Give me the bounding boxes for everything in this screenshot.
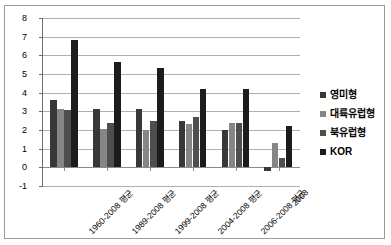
- gridline-1: [43, 149, 300, 150]
- bar: [193, 117, 199, 167]
- bar: [222, 130, 228, 167]
- bar: [229, 123, 235, 168]
- legend-item[interactable]: 영미형: [320, 90, 386, 100]
- y-tick-mark-6: [39, 55, 43, 56]
- y-tick-mark-8: [39, 18, 43, 19]
- bar-group: [264, 18, 292, 186]
- y-tick-mark-2: [39, 130, 43, 131]
- x-tick-label: 2008: [290, 188, 309, 207]
- legend-swatch-icon: [320, 92, 326, 98]
- gridline-0: [43, 167, 300, 168]
- x-tick-mark: [193, 167, 194, 171]
- y-tick-mark-7: [39, 37, 43, 38]
- bar: [200, 89, 206, 167]
- bar: [100, 129, 106, 167]
- legend-swatch-icon: [320, 149, 326, 155]
- bar: [150, 121, 156, 168]
- y-tick-mark--1: [39, 186, 43, 187]
- y-tick-label-4: 4: [22, 88, 27, 97]
- gridline-3: [43, 111, 300, 112]
- bar: [143, 130, 149, 167]
- plot-area: [43, 18, 300, 186]
- legend-item[interactable]: KOR: [320, 147, 386, 157]
- y-tick-label-6: 6: [22, 51, 27, 60]
- bar: [50, 100, 56, 167]
- bar: [136, 109, 142, 167]
- x-tick-mark: [150, 167, 151, 171]
- x-tick-mark: [236, 167, 237, 171]
- y-tick-label-2: 2: [22, 126, 27, 135]
- legend-label: 북유럽형: [330, 128, 366, 138]
- legend-swatch-icon: [320, 130, 326, 136]
- gridline-8: [43, 18, 300, 19]
- y-tick-mark-1: [39, 149, 43, 150]
- legend-label: KOR: [330, 147, 352, 157]
- bar: [114, 62, 120, 167]
- y-tick-mark-5: [39, 74, 43, 75]
- legend-item[interactable]: 북유럽형: [320, 128, 386, 138]
- legend-label: 대륙유럽형: [330, 109, 375, 119]
- bar-group: [50, 18, 78, 186]
- y-tick-label-0: 0: [22, 163, 27, 172]
- bar: [243, 89, 249, 167]
- bar: [107, 123, 113, 168]
- legend-label: 영미형: [330, 90, 357, 100]
- bar-group: [93, 18, 121, 186]
- bar-group: [179, 18, 207, 186]
- bar: [279, 158, 285, 167]
- y-tick-mark-4: [39, 93, 43, 94]
- gridline-7: [43, 37, 300, 38]
- gridline-4: [43, 93, 300, 94]
- bar-group: [222, 18, 250, 186]
- y-tick-label-7: 7: [22, 32, 27, 41]
- bar: [57, 109, 63, 167]
- bar: [264, 167, 270, 171]
- bar: [157, 68, 163, 167]
- y-tick-mark-0: [39, 167, 43, 168]
- y-tick-label-3: 3: [22, 107, 27, 116]
- bar: [64, 110, 70, 167]
- x-tick-mark: [279, 167, 280, 171]
- chart-legend: 영미형대륙유럽형북유럽형KOR: [320, 90, 386, 166]
- gridline-6: [43, 55, 300, 56]
- x-tick-label: 2004-2008 평균: [216, 188, 264, 236]
- x-tick-label: 1999-2008 평균: [173, 188, 221, 236]
- bar: [272, 143, 278, 167]
- x-tick-mark: [64, 167, 65, 171]
- gridline-2: [43, 130, 300, 131]
- y-tick-label--1: -1: [19, 182, 27, 191]
- x-tick-label: 1989-2008 평균: [131, 188, 179, 236]
- bar: [186, 124, 192, 167]
- value-axis-line: [42, 18, 43, 186]
- legend-swatch-icon: [320, 111, 326, 117]
- y-tick-label-8: 8: [22, 14, 27, 23]
- gridline-5: [43, 74, 300, 75]
- bar: [179, 121, 185, 168]
- y-tick-label-5: 5: [22, 70, 27, 79]
- y-tick-label-1: 1: [22, 144, 27, 153]
- x-tick-mark: [107, 167, 108, 171]
- legend-item[interactable]: 대륙유럽형: [320, 109, 386, 119]
- y-tick-mark-3: [39, 111, 43, 112]
- bar: [71, 40, 77, 167]
- chart-frame: 876543210-1 1960-2008 평균1989-2008 평균1999…: [4, 5, 385, 239]
- bar: [93, 109, 99, 168]
- bar: [236, 123, 242, 167]
- bar: [286, 126, 292, 167]
- bar-group: [136, 18, 164, 186]
